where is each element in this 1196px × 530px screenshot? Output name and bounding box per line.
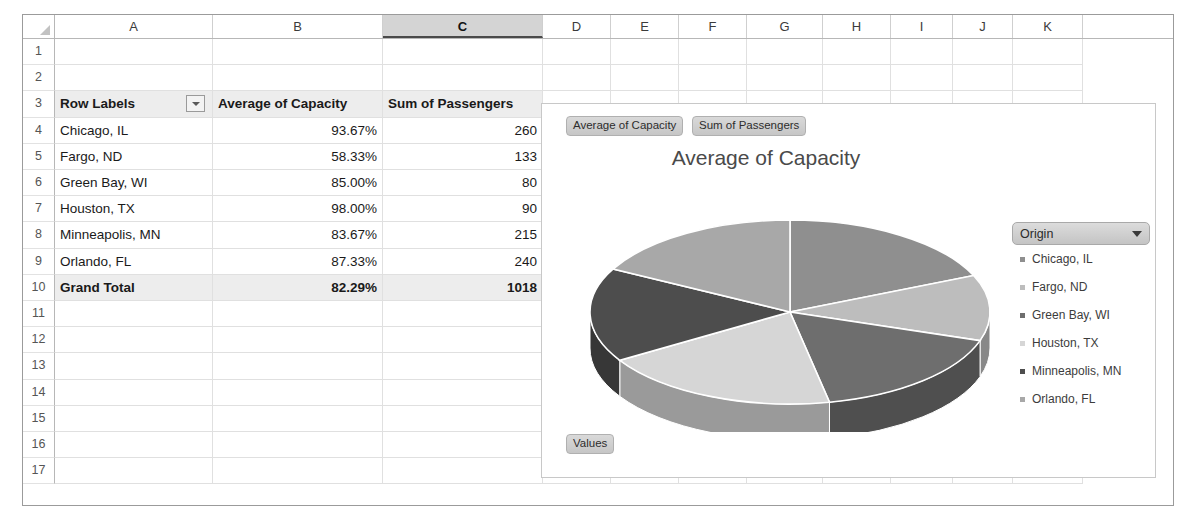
spreadsheet-grid[interactable]: ABCDEFGHIJK 1234567891011121314151617 Ro… [22, 14, 1174, 506]
legend-item[interactable]: Orlando, FL [1012, 385, 1150, 413]
cell-A17[interactable] [55, 458, 213, 484]
cell-C2[interactable] [383, 65, 543, 91]
cell-C13[interactable] [383, 353, 543, 379]
column-header-b[interactable]: B [213, 15, 383, 38]
row-header-9[interactable]: 9 [23, 249, 55, 275]
cell-B13[interactable] [213, 353, 383, 379]
column-header-h[interactable]: H [823, 15, 891, 38]
cell-C17[interactable] [383, 458, 543, 484]
row-header-14[interactable]: 14 [23, 380, 55, 406]
cell-C1[interactable] [383, 39, 543, 65]
cell-C14[interactable] [383, 380, 543, 406]
cell-B15[interactable] [213, 406, 383, 432]
cell-E1[interactable] [611, 39, 679, 65]
cell-A10[interactable]: Grand Total [55, 275, 213, 301]
row-header-5[interactable]: 5 [23, 144, 55, 170]
chart-legend[interactable]: Origin Chicago, ILFargo, NDGreen Bay, WI… [1012, 222, 1150, 413]
column-header-c[interactable]: C [383, 15, 543, 38]
cell-C15[interactable] [383, 406, 543, 432]
cell-H2[interactable] [823, 65, 891, 91]
cell-D2[interactable] [543, 65, 611, 91]
cell-C9[interactable]: 240 [383, 249, 543, 275]
chart-field-button-values[interactable]: Values [566, 434, 614, 454]
column-header-f[interactable]: F [679, 15, 747, 38]
column-header-k[interactable]: K [1013, 15, 1083, 38]
cell-J2[interactable] [953, 65, 1013, 91]
cell-G1[interactable] [747, 39, 823, 65]
column-header-i[interactable]: I [891, 15, 953, 38]
cell-C5[interactable]: 133 [383, 144, 543, 170]
cell-B9[interactable]: 87.33% [213, 249, 383, 275]
cell-B1[interactable] [213, 39, 383, 65]
legend-item[interactable]: Chicago, IL [1012, 245, 1150, 273]
cell-G2[interactable] [747, 65, 823, 91]
table-row-label-4[interactable]: Chicago, IL [55, 118, 213, 144]
pivot-chart[interactable]: Average of Capacity Sum of Passengers Va… [541, 103, 1156, 478]
cell-C11[interactable] [383, 301, 543, 327]
cell-B5[interactable]: 58.33% [213, 144, 383, 170]
row-header-16[interactable]: 16 [23, 432, 55, 458]
column-header-g[interactable]: G [747, 15, 823, 38]
row-header-1[interactable]: 1 [23, 39, 55, 65]
cell-A2[interactable] [55, 65, 213, 91]
cell-A3[interactable]: Row Labels [55, 91, 213, 117]
cell-C6[interactable]: 80 [383, 170, 543, 196]
column-header-d[interactable]: D [543, 15, 611, 38]
cell-B2[interactable] [213, 65, 383, 91]
legend-field-button-origin[interactable]: Origin [1012, 222, 1150, 245]
cell-B17[interactable] [213, 458, 383, 484]
cell-B3[interactable]: Average of Capacity [213, 91, 383, 117]
cell-K1[interactable] [1013, 39, 1083, 65]
cell-C16[interactable] [383, 432, 543, 458]
cell-C12[interactable] [383, 327, 543, 353]
cell-C4[interactable]: 260 [383, 118, 543, 144]
cell-A1[interactable] [55, 39, 213, 65]
cell-C10[interactable]: 1018 [383, 275, 543, 301]
cell-B16[interactable] [213, 432, 383, 458]
row-header-12[interactable]: 12 [23, 327, 55, 353]
legend-item[interactable]: Houston, TX [1012, 329, 1150, 357]
cell-K2[interactable] [1013, 65, 1083, 91]
table-row-label-5[interactable]: Fargo, ND [55, 144, 213, 170]
cell-D1[interactable] [543, 39, 611, 65]
cell-I2[interactable] [891, 65, 953, 91]
cell-B7[interactable]: 98.00% [213, 196, 383, 222]
row-header-11[interactable]: 11 [23, 301, 55, 327]
column-header-a[interactable]: A [55, 15, 213, 38]
row-labels-filter-button[interactable] [186, 95, 205, 112]
cell-B14[interactable] [213, 380, 383, 406]
row-header-17[interactable]: 17 [23, 458, 55, 484]
table-row-label-8[interactable]: Minneapolis, MN [55, 222, 213, 248]
cell-B4[interactable]: 93.67% [213, 118, 383, 144]
column-header-j[interactable]: J [953, 15, 1013, 38]
cell-A14[interactable] [55, 380, 213, 406]
pie-chart-3d[interactable] [580, 192, 1000, 432]
legend-item[interactable]: Minneapolis, MN [1012, 357, 1150, 385]
legend-item[interactable]: Green Bay, WI [1012, 301, 1150, 329]
cell-C3[interactable]: Sum of Passengers [383, 91, 543, 117]
cell-B12[interactable] [213, 327, 383, 353]
cell-C8[interactable]: 215 [383, 222, 543, 248]
row-header-8[interactable]: 8 [23, 222, 55, 248]
row-header-2[interactable]: 2 [23, 65, 55, 91]
cell-A13[interactable] [55, 353, 213, 379]
cell-B6[interactable]: 85.00% [213, 170, 383, 196]
row-header-10[interactable]: 10 [23, 275, 55, 301]
cell-B8[interactable]: 83.67% [213, 222, 383, 248]
row-header-15[interactable]: 15 [23, 406, 55, 432]
row-header-7[interactable]: 7 [23, 196, 55, 222]
cell-A16[interactable] [55, 432, 213, 458]
cell-E2[interactable] [611, 65, 679, 91]
chart-field-button-average-of-capacity[interactable]: Average of Capacity [566, 116, 683, 136]
cell-B10[interactable]: 82.29% [213, 275, 383, 301]
legend-item[interactable]: Fargo, ND [1012, 273, 1150, 301]
table-row-label-9[interactable]: Orlando, FL [55, 249, 213, 275]
table-row-label-7[interactable]: Houston, TX [55, 196, 213, 222]
cell-H1[interactable] [823, 39, 891, 65]
row-header-6[interactable]: 6 [23, 170, 55, 196]
row-header-3[interactable]: 3 [23, 91, 55, 117]
cell-I1[interactable] [891, 39, 953, 65]
cell-C7[interactable]: 90 [383, 196, 543, 222]
cell-F1[interactable] [679, 39, 747, 65]
row-header-13[interactable]: 13 [23, 353, 55, 379]
